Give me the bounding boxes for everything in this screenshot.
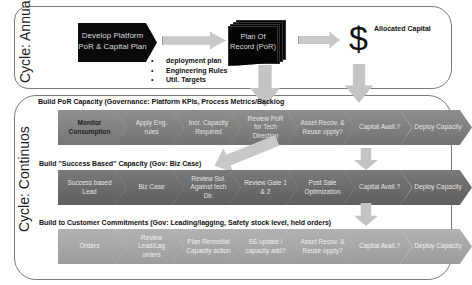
process-step: Orders — [58, 229, 127, 264]
section-title-success-based: Build "Success Based" Capacity (Gov: Biz… — [39, 160, 201, 167]
annual-cycle-label: Cycle: Annual — [17, 0, 33, 83]
continuous-cycle-label: Cycle: Continuos — [16, 126, 32, 232]
process-step: Success based Lead — [58, 170, 127, 205]
bullet-item: Util. Targets — [151, 75, 227, 85]
section-title-customer-commitments: Build to Customer Commitments (Gov: Lead… — [39, 219, 331, 226]
section-title-por-capacity: Build PoR Capacity (Governance: Platform… — [38, 98, 284, 105]
bullet-item: deployment plan — [151, 56, 227, 66]
plan-of-record-document-stack: Plan Of Record (PoR) — [228, 20, 286, 66]
develop-platform-plan-box: Develop Platform PoR & Capital Plan — [78, 23, 157, 62]
dollar-icon: $ — [349, 19, 368, 58]
plan-of-record-label: Plan Of Record (PoR) — [228, 26, 278, 66]
plan-bullet-list: deployment plan Engineering Rules Util. … — [151, 56, 227, 85]
process-row-success-based: Success based Lead Biz Case Review Sol. … — [58, 170, 460, 205]
allocated-capital-label: Allocated Capital — [374, 24, 431, 34]
bullet-item: Engineering Rules — [151, 66, 227, 76]
process-row-por-capacity: Monitor Consumption Apply Eng. rules Inc… — [58, 110, 460, 145]
process-row-customer-commitments: Orders Review Lead/Lag orders Plan Remed… — [58, 229, 460, 264]
process-step: Monitor Consumption — [58, 110, 127, 145]
